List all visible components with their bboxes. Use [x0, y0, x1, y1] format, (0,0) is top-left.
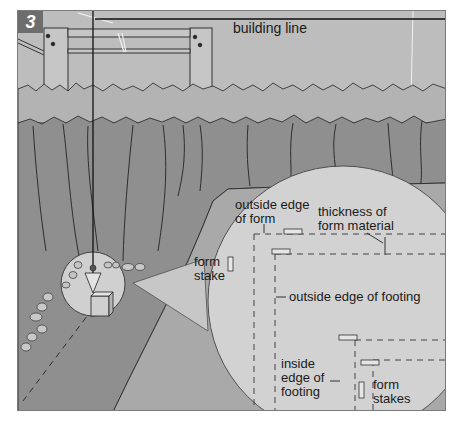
form-stake-label: form stake [194, 255, 225, 283]
building-line-label: building line [233, 21, 307, 35]
inside-edge-of-footing-label: inside edge of footing [281, 357, 324, 399]
illustration-frame: 3 building line outside edge of form thi… [17, 10, 446, 411]
step-number-badge: 3 [18, 11, 43, 33]
outside-edge-of-footing-label: outside edge of footing [289, 290, 421, 304]
outside-edge-of-form-label: outside edge of form [235, 198, 309, 226]
form-stakes-label: form stakes [373, 378, 411, 406]
thickness-of-form-material-label: thickness of form material [318, 205, 394, 233]
